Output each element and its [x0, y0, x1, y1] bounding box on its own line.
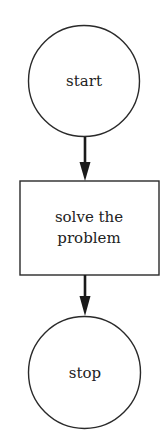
stop-label: stop: [69, 364, 101, 382]
arrow-down-icon: [80, 296, 91, 316]
arrow-down-icon: [80, 162, 91, 181]
flowchart: start solve the problem stop: [0, 0, 167, 445]
edge-start-to-process: [80, 137, 91, 181]
stop-node: stop: [29, 317, 141, 429]
edge-process-to-stop: [80, 275, 91, 316]
process-node: solve the problem: [20, 181, 159, 275]
process-label-line-1: solve the: [55, 208, 123, 226]
process-label-line-2: problem: [57, 229, 120, 247]
start-node: start: [29, 26, 140, 137]
process-rectangle: [20, 181, 159, 275]
start-label: start: [66, 72, 102, 90]
